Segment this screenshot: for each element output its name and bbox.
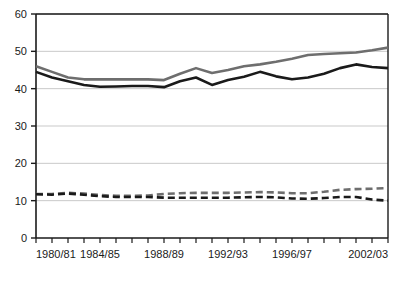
y-tick-label: 0: [21, 232, 27, 244]
x-tick-label: 1992/93: [208, 248, 248, 260]
x-tick-label: 1980/81: [36, 248, 76, 260]
y-tick-label: 50: [15, 45, 27, 57]
x-tick-label: 2002/03: [348, 248, 388, 260]
y-tick-label: 60: [15, 8, 27, 20]
x-tick-label: 1988/89: [144, 248, 184, 260]
x-tick-label: 1996/97: [272, 248, 312, 260]
x-tick-label: 1984/85: [80, 248, 120, 260]
line-chart: 0102030405060 1980/811984/851988/891992/…: [0, 0, 414, 284]
y-tick-label: 10: [15, 195, 27, 207]
y-tick-label: 20: [15, 157, 27, 169]
chart-background: [0, 0, 414, 284]
y-tick-label: 40: [15, 83, 27, 95]
chart-canvas: 0102030405060 1980/811984/851988/891992/…: [0, 0, 414, 284]
y-tick-label: 30: [15, 120, 27, 132]
